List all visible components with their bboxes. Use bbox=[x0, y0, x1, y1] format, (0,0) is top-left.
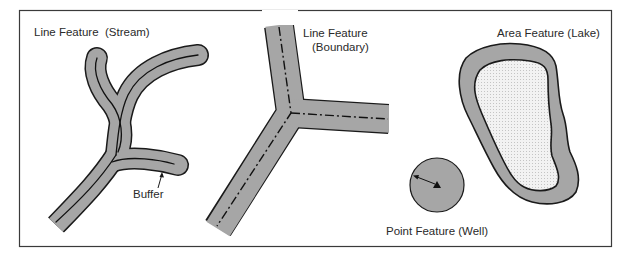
stream-feature bbox=[56, 55, 198, 225]
lake-label: Area Feature (Lake) bbox=[497, 27, 600, 39]
lake-feature bbox=[459, 44, 578, 204]
buffer-label: Buffer bbox=[133, 188, 164, 200]
boundary-feature bbox=[217, 10, 403, 229]
boundary-label-line2: (Boundary) bbox=[312, 41, 369, 53]
lake-area bbox=[475, 60, 559, 191]
buffer-diagram: Buffer Line Feature (Stream) Line Featur… bbox=[0, 0, 626, 263]
boundary-label-line1: Line Feature bbox=[303, 27, 368, 39]
well-label: Point Feature (Well) bbox=[386, 225, 488, 237]
well-feature bbox=[410, 158, 464, 212]
stream-label: Line Feature (Stream) bbox=[34, 26, 150, 38]
buffer-annotation: Buffer bbox=[133, 172, 164, 200]
